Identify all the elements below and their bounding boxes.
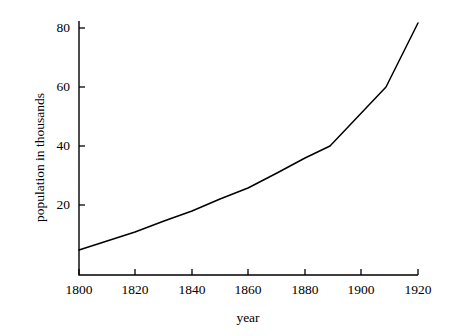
axis-lines (79, 21, 418, 275)
x-axis-title: year (236, 310, 259, 326)
population-line-chart: 80 60 40 20 1800 1820 1840 1860 1880 190… (0, 0, 451, 336)
y-tick-label-60: 60 (40, 80, 70, 94)
y-axis-title: population in thousands (32, 93, 48, 222)
x-tick-label-1880: 1880 (292, 283, 319, 297)
x-tick-label-1900: 1900 (348, 283, 375, 297)
y-tick-label-80: 80 (40, 21, 70, 35)
data-line-population (79, 23, 418, 250)
x-tick-label-1860: 1860 (235, 283, 262, 297)
x-tick-label-1820: 1820 (122, 283, 149, 297)
y-axis-ticks (79, 28, 85, 205)
x-tick-label-1800: 1800 (66, 283, 93, 297)
x-tick-label-1840: 1840 (179, 283, 206, 297)
x-tick-label-1920: 1920 (405, 283, 432, 297)
x-axis-ticks (79, 269, 418, 275)
